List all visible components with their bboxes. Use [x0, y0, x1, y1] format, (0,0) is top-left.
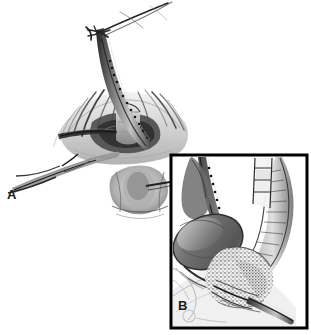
panel-label-a: A: [7, 188, 17, 201]
illustration-canvas: [0, 0, 311, 335]
panel-label-b: B: [178, 299, 188, 312]
surgical-illustration-figure: [0, 0, 311, 335]
panel-b-stent-tube: [253, 158, 272, 208]
